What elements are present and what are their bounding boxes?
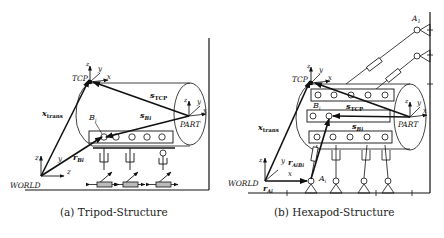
world-label-a: WORLD [10, 181, 41, 190]
svg-text:y: y [97, 65, 103, 73]
x-trans-label-a: xtrans [41, 108, 63, 119]
tripod-legs [90, 148, 178, 187]
part-label-a: PART [179, 120, 201, 129]
svg-text:x: x [203, 107, 207, 115]
r-aibi-label: rAiBi [288, 157, 304, 168]
svg-text:z: z [66, 168, 71, 176]
tcp-frame-b: z y x TCP [292, 62, 332, 85]
r-ai-label: rAi [263, 183, 273, 194]
tcp-label-a: TCP [72, 74, 89, 83]
ai-label: Ai [318, 174, 327, 184]
panel-hexapod: A1 [228, 12, 433, 196]
bi-label-b: Bi [312, 101, 321, 111]
svg-text:x: x [328, 74, 332, 82]
r-bi-label-a: rBi [73, 152, 84, 163]
s-tcp-label-a: sTCP [150, 90, 167, 101]
tcp-frame-a: z y x TCP [72, 60, 111, 84]
svg-text:y: y [280, 157, 286, 165]
caption-hexapod: (b) Hexapod-Structure [274, 206, 394, 218]
a1-label: A1 [411, 14, 421, 24]
part-frame-b: z y x PART [397, 97, 427, 129]
panel-tripod: z z y WORLD z y x TCP z y x [10, 38, 209, 190]
part-frame-a: z y x PART [179, 96, 207, 129]
s-bi-label-a: sBi [140, 110, 151, 121]
bi-label-a: Bi [88, 113, 97, 123]
wall-struts: A1 [346, 14, 430, 94]
lower-platform-b [309, 131, 392, 143]
s-bi-label-b: sBi [352, 121, 363, 132]
diagram-canvas: z z y WORLD z y x TCP z y x [0, 0, 444, 238]
upper-platform-b [311, 89, 394, 101]
svg-text:x: x [423, 107, 427, 115]
tripod-leg-3 [150, 150, 178, 187]
svg-text:z: z [306, 62, 311, 69]
world-frame-a: z z y WORLD [10, 154, 71, 190]
part-label-b: PART [397, 120, 419, 129]
world-frame-b: z y x WORLD [228, 156, 292, 188]
svg-text:y: y [416, 99, 422, 107]
s-bi-vector-b [333, 116, 410, 117]
x-trans-label-b: xtrans [257, 122, 279, 133]
svg-text:x: x [288, 170, 292, 178]
svg-text:z: z [258, 156, 263, 163]
caption-tripod: (a) Tripod-Structure [60, 206, 168, 218]
svg-text:z: z [183, 96, 188, 103]
s-tcp-label-b: sTCP [346, 101, 363, 112]
tcp-label-b: TCP [292, 75, 309, 84]
svg-text:x: x [107, 73, 111, 81]
tripod-leg-1 [90, 148, 119, 187]
svg-text:y: y [318, 66, 324, 74]
world-label-b: WORLD [228, 179, 259, 188]
tripod-leg-2 [118, 148, 145, 187]
svg-text:z: z [85, 60, 90, 67]
svg-text:z: z [404, 97, 409, 104]
svg-text:z: z [34, 154, 39, 162]
svg-text:y: y [196, 98, 202, 106]
